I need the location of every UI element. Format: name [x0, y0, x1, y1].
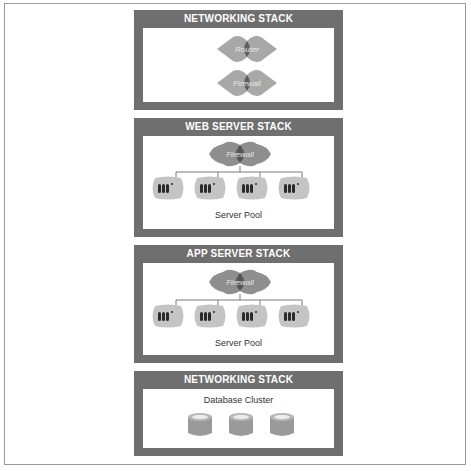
server-icon: [277, 304, 311, 328]
database-cluster-label: Database Cluster: [143, 395, 334, 405]
stack-body: Firewall Server: [143, 263, 334, 355]
server-icon: [193, 176, 227, 200]
networking-stack-top: NETWORKING STACK Router Firewall: [134, 10, 343, 110]
stack-title: APP SERVER STACK: [134, 245, 343, 263]
router-label: Router: [235, 45, 259, 54]
server-icon: [193, 304, 227, 328]
stack-title: WEB SERVER STACK: [134, 118, 343, 136]
server-icon: [151, 176, 185, 200]
stack-title: NETWORKING STACK: [134, 371, 343, 389]
server-icon: [235, 176, 269, 200]
firewall-label: Firewall: [233, 79, 261, 88]
firewall-icon: Firewall: [215, 70, 279, 96]
firewall-icon: Firewall: [207, 268, 273, 296]
web-server-stack: WEB SERVER STACK Firewall: [134, 118, 343, 237]
database-icon: [187, 412, 213, 438]
server-icon: [277, 176, 311, 200]
stack-body: Firewall Server: [143, 136, 334, 229]
stack-body: Router Firewall: [143, 28, 334, 102]
stack-body: Database Cluster: [143, 389, 334, 448]
server-pool-label: Server Pool: [143, 210, 334, 220]
database-icon: [228, 412, 254, 438]
database-icon: [269, 412, 295, 438]
networking-stack-database: NETWORKING STACK Database Cluster: [134, 371, 343, 456]
server-icon: [151, 304, 185, 328]
app-server-stack: APP SERVER STACK Firewall: [134, 245, 343, 363]
firewall-icon: Firewall: [207, 140, 273, 168]
server-pool-label: Server Pool: [143, 338, 334, 348]
firewall-label: Firewall: [226, 150, 254, 159]
server-icon: [235, 304, 269, 328]
firewall-label: Firewall: [226, 278, 254, 287]
stack-title: NETWORKING STACK: [134, 10, 343, 28]
router-icon: Router: [215, 36, 279, 62]
